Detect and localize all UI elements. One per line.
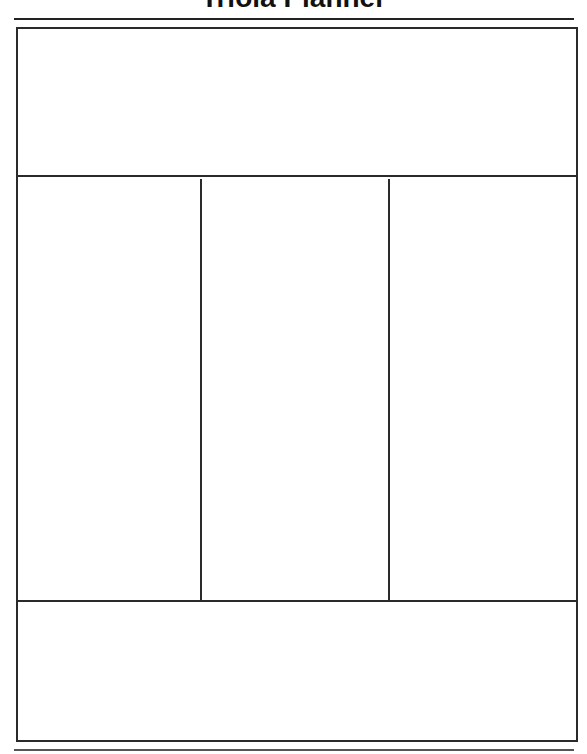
title-divider — [14, 18, 574, 20]
page-title: Triola Planner — [0, 0, 587, 12]
column-2-section[interactable] — [204, 179, 390, 600]
bottom-section[interactable] — [18, 600, 576, 740]
footer-divider — [14, 749, 574, 751]
column-1-section[interactable] — [18, 179, 202, 600]
column-3-section[interactable] — [392, 179, 576, 600]
planner-frame — [16, 27, 578, 742]
top-section[interactable] — [18, 29, 576, 177]
